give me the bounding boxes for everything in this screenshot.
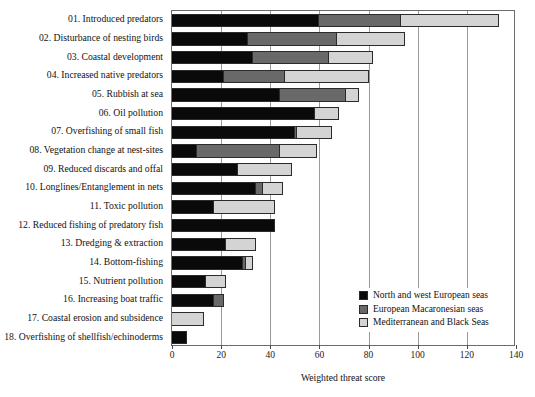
weighted-threat-score-chart: 01. Introduced predators02. Disturbance …	[0, 0, 535, 397]
bar-segment	[172, 294, 214, 307]
bar-segment	[197, 144, 281, 157]
category-label: 11. Toxic pollution	[90, 200, 163, 211]
category-label: 17. Coastal erosion and subsidence	[27, 312, 163, 323]
bar-segment	[172, 70, 224, 83]
legend-label-0: North and west European seas	[373, 289, 488, 303]
legend: North and west European seas European Ma…	[357, 288, 491, 332]
bar-segment	[172, 14, 319, 27]
category-label: 08. Vegetation change at nest-sites	[29, 144, 163, 155]
bar-segment	[248, 32, 336, 45]
bar-segment	[346, 88, 358, 101]
bar-segment	[280, 144, 317, 157]
x-tick-40	[270, 345, 271, 349]
category-label: 12. Reduced fishing of predatory fish	[18, 219, 163, 230]
legend-item-2: Mediterranean and Black Seas	[359, 316, 489, 330]
category-label: 02. Disturbance of nesting birds	[39, 32, 163, 43]
category-label: 15. Nutrient pollution	[79, 275, 163, 286]
bar-segment	[337, 32, 406, 45]
bar-segment	[329, 51, 373, 64]
category-label: 14. Bottom-fishing	[89, 256, 163, 267]
bar-segment	[238, 163, 292, 176]
category-label: 18. Overfishing of shellfish/echinoderms	[4, 331, 163, 342]
legend-label-2: Mediterranean and Black Seas	[373, 316, 489, 330]
bar-segment	[172, 163, 238, 176]
bar-segment	[280, 88, 346, 101]
bar-segment	[226, 238, 255, 251]
legend-item-1: European Macaronesian seas	[359, 303, 489, 317]
x-tick-60	[319, 345, 320, 349]
x-tick-140	[516, 345, 517, 349]
x-tick-20	[221, 345, 222, 349]
category-label: 01. Introduced predators	[68, 13, 163, 24]
bar-segment	[172, 32, 248, 45]
bar-segment	[263, 182, 283, 195]
bar-segment	[172, 256, 243, 269]
legend-swatch-european-macaronesian-seas	[359, 305, 368, 314]
category-label: 06. Oil pollution	[99, 107, 163, 118]
bar-segment	[172, 312, 204, 325]
bar-segment	[172, 182, 256, 195]
x-tick-0	[172, 345, 173, 349]
x-tick-120	[467, 345, 468, 349]
bar-segment	[319, 14, 400, 27]
bar-segment	[214, 294, 224, 307]
x-tick-80	[369, 345, 370, 349]
bar-segment	[172, 238, 226, 251]
bar-segment	[297, 126, 331, 139]
bar-segment	[172, 126, 295, 139]
bar-segment	[172, 219, 275, 232]
x-axis-title: Weighted threat score	[171, 372, 515, 383]
bar-segment	[172, 331, 187, 344]
bar-segment	[172, 275, 206, 288]
x-tick-label-80: 80	[364, 350, 374, 360]
bar-segment	[172, 200, 214, 213]
category-label: 04. Increased native predators	[47, 69, 163, 80]
category-label: 03. Coastal development	[67, 51, 163, 62]
x-tick-label-140: 140	[509, 350, 523, 360]
x-tick-label-120: 120	[460, 350, 474, 360]
x-tick-label-0: 0	[170, 350, 175, 360]
category-label: 05. Rubbish at sea	[92, 88, 163, 99]
bar-segment	[172, 144, 197, 157]
category-label: 09. Reduced discards and offal	[43, 163, 163, 174]
category-label: 10. Longlines/Entanglement in nets	[25, 181, 163, 192]
bar-segment	[253, 51, 329, 64]
bar-segment	[315, 107, 340, 120]
x-tick-label-20: 20	[216, 350, 226, 360]
bar-segment	[172, 51, 253, 64]
category-labels: 01. Introduced predators02. Disturbance …	[0, 10, 167, 346]
bar-segment	[214, 200, 275, 213]
bar-segment	[401, 14, 499, 27]
bar-segment	[256, 182, 263, 195]
bar-segment	[172, 88, 280, 101]
x-tick-100	[418, 345, 419, 349]
x-tick-label-60: 60	[315, 350, 325, 360]
legend-swatch-mediterranean-black-seas	[359, 318, 368, 327]
category-label: 16. Increasing boat traffic	[63, 293, 163, 304]
bar-segment	[285, 70, 369, 83]
legend-label-1: European Macaronesian seas	[373, 303, 483, 317]
legend-item-0: North and west European seas	[359, 289, 489, 303]
category-label: 07. Overfishing of small fish	[51, 125, 163, 136]
bar-segment	[172, 107, 315, 120]
bar-segment	[246, 256, 253, 269]
x-tick-label-40: 40	[266, 350, 276, 360]
bar-segment	[206, 275, 226, 288]
x-tick-label-100: 100	[411, 350, 425, 360]
bar-segment	[224, 70, 285, 83]
legend-swatch-north-west-european-seas	[359, 291, 368, 300]
category-label: 13. Dredging & extraction	[61, 237, 163, 248]
